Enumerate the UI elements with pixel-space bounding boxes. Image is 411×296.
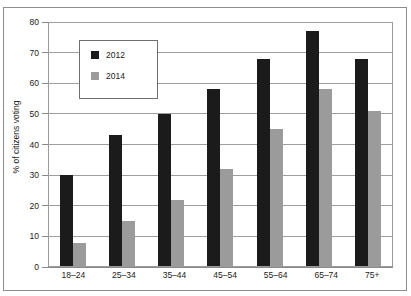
legend-label: 2012: [106, 50, 125, 60]
bar-2012-18–24: [60, 175, 73, 267]
bar-2014-18–24: [73, 243, 86, 268]
y-axis-tick-label: 70: [30, 48, 39, 58]
bar-group: [257, 22, 283, 267]
bar-2012-45–54: [207, 89, 220, 267]
bar-2014-45–54: [220, 169, 233, 267]
black-square-icon: [91, 51, 99, 59]
bar-2012-65–74: [306, 31, 319, 267]
x-axis-tick-label: 35–44: [163, 270, 187, 280]
bar-2012-25–34: [109, 135, 122, 267]
bar-group: [355, 22, 381, 267]
legend-label: 2014: [106, 71, 125, 81]
y-axis-tick-label: 50: [30, 109, 39, 119]
y-axis-tick-label: 80: [30, 17, 39, 27]
x-axis-tick-labels: 18–2425–3435–4445–5455–6465–7475+: [48, 270, 393, 280]
y-axis-tick-label: 20: [30, 201, 39, 211]
gray-square-icon: [91, 72, 99, 80]
legend-entry-2012: 2012: [91, 50, 157, 60]
x-axis-tick-label: 65–74: [314, 270, 338, 280]
bar-2014-25–34: [122, 221, 135, 267]
bar-2012-35–44: [158, 114, 171, 267]
bar-2014-55–64: [270, 129, 283, 267]
bar-2014-65–74: [319, 89, 332, 267]
x-axis-tick-label: 45–54: [213, 270, 237, 280]
bar-group: [207, 22, 233, 267]
y-axis-tick-label: 40: [30, 140, 39, 150]
x-axis-tick-label: 75+: [365, 270, 379, 280]
y-axis-tick-label: 0: [34, 262, 39, 272]
x-axis-tick-label: 55–64: [264, 270, 288, 280]
bar-2014-75+: [368, 111, 381, 267]
x-axis-tick-label: 25–34: [112, 270, 136, 280]
bar-group: [158, 22, 184, 267]
y-axis-title: % of citizens voting: [11, 82, 21, 192]
bar-chart-figure: % of citizens voting 80706050403020100 1…: [0, 0, 411, 296]
y-axis-tick-label: 30: [30, 170, 39, 180]
chart-legend: 2012 2014: [79, 40, 158, 99]
y-axis-tick-label: 10: [30, 231, 39, 241]
bar-group: [306, 22, 332, 267]
x-axis-tick-label: 18–24: [61, 270, 85, 280]
bar-2014-35–44: [171, 200, 184, 267]
bar-2012-55–64: [257, 59, 270, 267]
y-axis-tick-label: 60: [30, 78, 39, 88]
bar-2012-75+: [355, 59, 368, 267]
legend-entry-2014: 2014: [91, 71, 157, 81]
